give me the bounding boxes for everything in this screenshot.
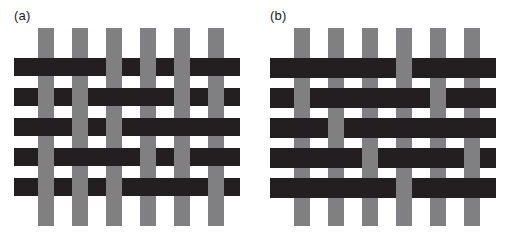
crossing-warp-over-r1c3 bbox=[106, 58, 122, 76]
weave-figure: (a) (b) bbox=[0, 0, 512, 237]
crossing-warp-over-r3c2 bbox=[72, 118, 88, 136]
crossing-warp-over-r4c1 bbox=[38, 148, 54, 166]
panel-a-weave-diagram bbox=[14, 28, 240, 226]
crossing-warp-over-r5c1 bbox=[38, 178, 54, 196]
crossing-warp-over-r3c2 bbox=[328, 118, 344, 138]
weft-thread-3 bbox=[14, 118, 240, 136]
crossing-warp-over-r2c5 bbox=[430, 88, 446, 108]
panel-a-weave-svg bbox=[14, 28, 240, 226]
weft-thread-3 bbox=[270, 118, 496, 138]
panel-b-label: (b) bbox=[270, 8, 287, 23]
crossing-warp-over-r4c6 bbox=[464, 148, 480, 168]
panel-a: (a) bbox=[0, 0, 256, 237]
crossing-warp-over-r2c2 bbox=[72, 88, 88, 106]
crossing-warp-over-r2c6 bbox=[208, 88, 224, 106]
crossing-warp-over-r1c5 bbox=[174, 58, 190, 76]
crossing-warp-over-r2c1 bbox=[38, 88, 54, 106]
crossing-warp-over-r4c4 bbox=[140, 148, 156, 166]
crossing-warp-over-r2c1 bbox=[294, 88, 310, 108]
crossing-warp-over-r1c4 bbox=[140, 58, 156, 76]
crossing-warp-over-r2c5 bbox=[174, 88, 190, 106]
crossing-warp-over-r4c3 bbox=[362, 148, 378, 168]
crossing-warp-over-r4c5 bbox=[174, 148, 190, 166]
panel-a-label: (a) bbox=[14, 8, 31, 23]
panel-b: (b) bbox=[256, 0, 512, 237]
crossing-warp-over-r3c3 bbox=[106, 118, 122, 136]
crossing-warp-over-r5c6 bbox=[208, 178, 224, 196]
panel-b-weave-diagram bbox=[270, 28, 496, 226]
weft-thread-4 bbox=[270, 148, 496, 168]
weft-thread-1 bbox=[270, 58, 496, 78]
crossing-warp-over-r5c3 bbox=[106, 178, 122, 196]
weft-thread-1 bbox=[14, 58, 240, 76]
crossing-warp-over-r5c2 bbox=[72, 178, 88, 196]
panel-b-weave-svg bbox=[270, 28, 496, 226]
weft-thread-5 bbox=[270, 178, 496, 198]
crossing-warp-over-r5c4 bbox=[396, 178, 412, 198]
crossing-warp-over-r1c4 bbox=[396, 58, 412, 78]
